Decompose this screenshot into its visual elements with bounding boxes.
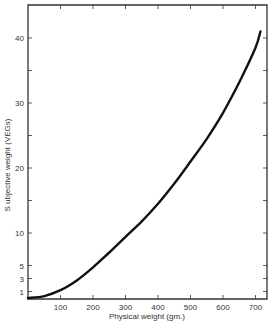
- svg-text:500: 500: [184, 303, 198, 312]
- y-axis-label: S ubjective weight (VEGs): [3, 118, 12, 211]
- svg-text:1: 1: [20, 288, 25, 297]
- data-curve: [28, 32, 260, 299]
- svg-text:200: 200: [86, 303, 100, 312]
- chart: 100200300400500600700 13510203040 Physic…: [0, 0, 272, 326]
- x-axis-label: Physical weight (gm.): [109, 312, 185, 321]
- svg-text:40: 40: [15, 34, 24, 43]
- svg-text:400: 400: [151, 303, 165, 312]
- svg-text:100: 100: [54, 303, 68, 312]
- svg-text:600: 600: [216, 303, 230, 312]
- svg-text:10: 10: [15, 229, 24, 238]
- svg-text:700: 700: [249, 303, 263, 312]
- svg-text:20: 20: [15, 164, 24, 173]
- svg-text:5: 5: [20, 262, 25, 271]
- y-axis-ticks: 13510203040: [15, 34, 267, 297]
- svg-text:30: 30: [15, 99, 24, 108]
- x-axis-ticks: 100200300400500600700: [54, 5, 263, 312]
- svg-text:3: 3: [20, 275, 25, 284]
- svg-text:300: 300: [119, 303, 133, 312]
- plot-frame: [28, 5, 267, 299]
